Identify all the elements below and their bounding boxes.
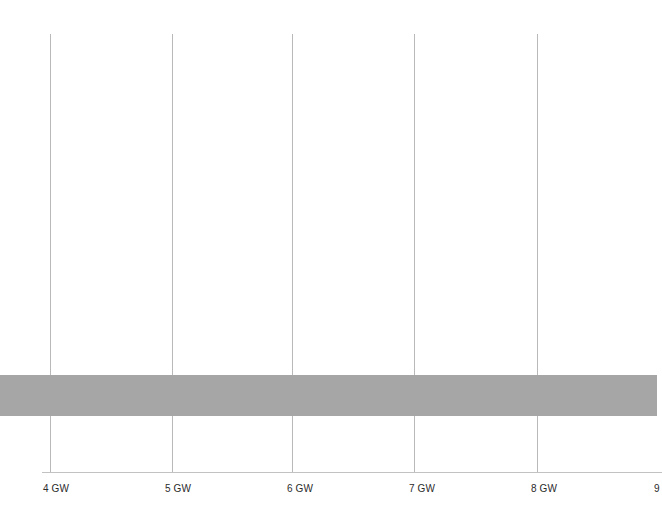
plot-area: 4 GW 5 GW 6 GW 7 GW 8 GW 9 — [0, 0, 662, 524]
x-tick-label-6gw: 6 GW — [287, 483, 313, 495]
bar-series-0[interactable] — [0, 375, 657, 416]
x-axis-line — [42, 472, 662, 473]
x-tick-label-4gw: 4 GW — [43, 483, 69, 495]
x-tick-label-7gw: 7 GW — [409, 483, 435, 495]
x-tick-label-5gw: 5 GW — [165, 483, 191, 495]
x-tick-label-9gw: 9 — [654, 483, 662, 495]
x-tick-label-8gw: 8 GW — [531, 483, 557, 495]
chart-container: 4 GW 5 GW 6 GW 7 GW 8 GW 9 — [0, 0, 662, 524]
